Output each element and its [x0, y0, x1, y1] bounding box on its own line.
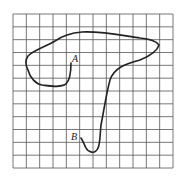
curve-path [26, 32, 159, 152]
grid-diagram: A B [0, 0, 181, 181]
grid-curve-figure [0, 0, 181, 181]
point-label-a: A [72, 54, 78, 64]
grid-lines [13, 14, 173, 168]
point-label-b: B [71, 132, 77, 142]
